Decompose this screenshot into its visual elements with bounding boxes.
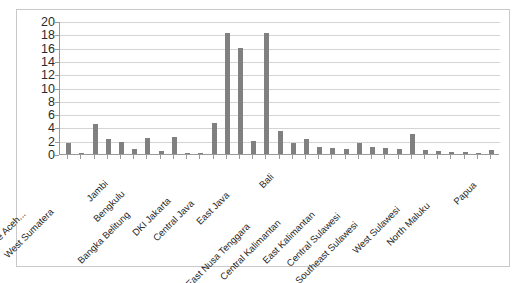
bar[interactable] xyxy=(93,124,98,154)
bar[interactable] xyxy=(119,142,124,154)
bar[interactable] xyxy=(251,141,256,154)
x-tick-slot xyxy=(431,155,444,159)
x-tick-slot xyxy=(352,155,365,159)
x-axis-tickmark xyxy=(424,155,425,159)
bar[interactable] xyxy=(79,153,84,154)
x-tick-slot xyxy=(127,155,140,159)
bar[interactable] xyxy=(449,152,454,154)
x-axis-tickmark xyxy=(213,155,214,159)
bar-slot xyxy=(75,21,88,154)
bar-slot xyxy=(432,21,445,154)
y-axis-tick-label: 14 xyxy=(22,56,55,69)
x-tick-slot xyxy=(365,155,378,159)
x-axis-tickmark xyxy=(67,155,68,159)
bar[interactable] xyxy=(145,138,150,154)
y-axis-tick-label: 2 xyxy=(22,136,55,149)
bar-slot xyxy=(313,21,326,154)
y-axis-tickmark xyxy=(55,22,59,23)
bar[interactable] xyxy=(463,152,468,154)
bar[interactable] xyxy=(330,148,335,154)
x-tick-slot xyxy=(154,155,167,159)
x-tick-slot xyxy=(246,155,259,159)
bar-slot xyxy=(168,21,181,154)
x-tick-slot xyxy=(444,155,457,159)
bar-slot xyxy=(406,21,419,154)
y-axis-tickmark xyxy=(55,49,59,50)
x-axis-tickmark xyxy=(331,155,332,159)
bar[interactable] xyxy=(383,148,388,154)
y-axis-tickmark xyxy=(55,62,59,63)
bar[interactable] xyxy=(212,123,217,154)
bar[interactable] xyxy=(159,151,164,154)
x-axis-tickmark xyxy=(265,155,266,159)
x-tick-slot xyxy=(259,155,272,159)
x-tick-slot xyxy=(167,155,180,159)
x-axis-labels: Nangroe Aceh...West SumateraJambiBengkul… xyxy=(59,160,499,280)
x-axis-tickmark xyxy=(173,155,174,159)
y-axis-tick-label: 16 xyxy=(22,43,55,56)
bar-slot xyxy=(221,21,234,154)
bar[interactable] xyxy=(264,33,269,154)
x-axis-tickmark xyxy=(279,155,280,159)
x-axis-tickmarks xyxy=(59,155,499,159)
bar[interactable] xyxy=(304,139,309,154)
bar[interactable] xyxy=(185,153,190,154)
x-axis-tickmark xyxy=(120,155,121,159)
x-axis-tickmark xyxy=(450,155,451,159)
y-axis-labels: 02468101214161820 xyxy=(22,14,55,163)
bar-slot xyxy=(485,21,498,154)
x-tick-slot xyxy=(458,155,471,159)
bar[interactable] xyxy=(436,151,441,154)
bar-slot xyxy=(62,21,75,154)
bar-slot xyxy=(459,21,472,154)
x-tick-slot xyxy=(114,155,127,159)
x-tick-slot xyxy=(378,155,391,159)
x-tick-slot xyxy=(193,155,206,159)
x-tick-slot xyxy=(87,155,100,159)
bar-slot xyxy=(419,21,432,154)
bar-slot xyxy=(260,21,273,154)
x-axis-tickmark xyxy=(239,155,240,159)
y-axis-tickmark xyxy=(55,35,59,36)
x-tick-slot xyxy=(180,155,193,159)
y-axis-tick-label: 18 xyxy=(22,29,55,42)
x-axis-tickmark xyxy=(160,155,161,159)
bar-slot xyxy=(102,21,115,154)
bar[interactable] xyxy=(317,147,322,154)
bar[interactable] xyxy=(476,153,481,154)
bar[interactable] xyxy=(357,143,362,154)
bar[interactable] xyxy=(370,147,375,154)
bar[interactable] xyxy=(489,150,494,154)
x-axis-tickmark xyxy=(477,155,478,159)
bar[interactable] xyxy=(291,143,296,154)
x-axis-tickmark xyxy=(199,155,200,159)
bar-slot xyxy=(181,21,194,154)
bar[interactable] xyxy=(106,139,111,154)
bar[interactable] xyxy=(198,153,203,154)
x-axis-tickmark xyxy=(226,155,227,159)
bar[interactable] xyxy=(397,149,402,154)
bar-slot xyxy=(115,21,128,154)
bar[interactable] xyxy=(225,33,230,154)
x-tick-slot xyxy=(471,155,484,159)
bar-slot xyxy=(274,21,287,154)
y-axis-tickmark xyxy=(55,115,59,116)
bar-slot xyxy=(247,21,260,154)
x-axis-tickmark xyxy=(411,155,412,159)
x-tick-slot xyxy=(233,155,246,159)
y-axis-tick-label: 0 xyxy=(22,149,55,162)
bar[interactable] xyxy=(172,137,177,154)
bar[interactable] xyxy=(344,149,349,154)
x-axis-tickmark xyxy=(252,155,253,159)
bar[interactable] xyxy=(410,134,415,154)
bar[interactable] xyxy=(132,149,137,154)
x-tick-slot xyxy=(206,155,219,159)
bar[interactable] xyxy=(278,131,283,154)
bar[interactable] xyxy=(238,48,243,154)
bar[interactable] xyxy=(66,143,71,154)
x-tick-slot xyxy=(405,155,418,159)
bar[interactable] xyxy=(423,150,428,154)
x-tick-slot xyxy=(418,155,431,159)
bar-series xyxy=(60,21,500,154)
y-axis-tick-label: 12 xyxy=(22,69,55,82)
